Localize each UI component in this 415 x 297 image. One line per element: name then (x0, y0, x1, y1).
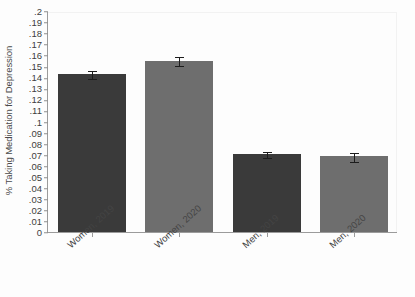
y-axis-tick: .03 (29, 195, 48, 205)
y-axis-tick-label: .05 (29, 173, 44, 183)
y-axis-tick: .02 (29, 206, 48, 216)
y-axis-tick-mark (44, 199, 48, 200)
y-axis-tick: .15 (29, 63, 48, 73)
y-axis-tick: .16 (29, 51, 48, 61)
error-bar-cap-upper (350, 153, 359, 154)
y-axis-tick-label: .19 (29, 18, 44, 28)
y-axis-tick: .14 (29, 74, 48, 84)
bar (145, 61, 213, 232)
y-axis-tick-label: .02 (29, 206, 44, 216)
y-axis-tick-label: .03 (29, 195, 44, 205)
y-axis-tick-label: .16 (29, 51, 44, 61)
y-axis-tick: .13 (29, 85, 48, 95)
y-axis-tick-mark (44, 233, 48, 234)
y-axis-tick-label: .2 (34, 7, 44, 17)
error-bar-cap-upper (263, 152, 272, 153)
y-axis-tick: .06 (29, 162, 48, 172)
y-axis-tick-label: .07 (29, 151, 44, 161)
y-axis-tick-mark (44, 23, 48, 24)
y-axis-tick-mark (44, 155, 48, 156)
y-axis-tick-mark (44, 221, 48, 222)
x-axis-tick-mark (92, 232, 93, 237)
plot-inner: 0.01.02.03.04.05.06.07.08.09.1.11.12.13.… (48, 12, 397, 232)
y-axis-tick-mark (44, 45, 48, 46)
y-axis-tick-label: .14 (29, 74, 44, 84)
y-axis-tick: .04 (29, 184, 48, 194)
bar (58, 74, 126, 232)
y-axis-tick-mark (44, 144, 48, 145)
y-axis-tick-mark (44, 34, 48, 35)
y-axis-tick-label: .17 (29, 40, 44, 50)
error-bar (92, 71, 93, 80)
y-axis-tick-label: .18 (29, 29, 44, 39)
y-axis-tick-label: 0 (37, 228, 44, 238)
x-axis-tick-mark (179, 232, 180, 237)
y-axis-tick-mark (44, 177, 48, 178)
y-axis-tick-mark (44, 89, 48, 90)
error-bar-cap-lower (175, 66, 184, 67)
y-axis-tick: 0 (37, 228, 48, 238)
y-axis-tick-mark (44, 111, 48, 112)
y-axis-tick-label: .06 (29, 162, 44, 172)
y-axis-tick-label: .1 (34, 118, 44, 128)
y-axis-tick-mark (44, 166, 48, 167)
y-axis-tick-label: .15 (29, 63, 44, 73)
x-axis-tick-mark (354, 232, 355, 237)
error-bar-cap-upper (88, 71, 97, 72)
x-axis-tick-mark (267, 232, 268, 237)
y-axis-title: % Taking Medication for Depression (0, 0, 18, 240)
y-axis-tick-label: .11 (29, 107, 44, 117)
error-bar-cap-lower (350, 162, 359, 163)
y-axis-tick: .08 (29, 140, 48, 150)
y-axis-tick: .09 (29, 129, 48, 139)
y-axis-tick: .01 (29, 217, 48, 227)
y-axis-tick-label: .04 (29, 184, 44, 194)
y-axis-tick-mark (44, 133, 48, 134)
bar-chart-figure: % Taking Medication for Depression 0.01.… (0, 0, 415, 297)
y-axis-tick-mark (44, 12, 48, 13)
y-axis-tick-label: .09 (29, 129, 44, 139)
error-bar-cap-upper (175, 57, 184, 58)
error-bar (179, 57, 180, 66)
y-axis-title-text: % Taking Medication for Depression (4, 45, 15, 195)
error-bar (354, 153, 355, 162)
y-axis-tick-mark (44, 188, 48, 189)
y-axis-tick-label: .12 (29, 96, 44, 106)
y-axis-tick: .12 (29, 96, 48, 106)
y-axis-tick: .18 (29, 29, 48, 39)
error-bar-cap-lower (88, 79, 97, 80)
y-axis-tick: .05 (29, 173, 48, 183)
y-axis-tick-mark (44, 210, 48, 211)
y-axis-tick: .11 (29, 107, 48, 117)
y-axis-tick-mark (44, 78, 48, 79)
y-axis-tick: .17 (29, 40, 48, 50)
y-axis-tick-mark (44, 100, 48, 101)
y-axis-tick-mark (44, 56, 48, 57)
y-axis-tick-label: .13 (29, 85, 44, 95)
y-axis-tick-mark (44, 67, 48, 68)
error-bar-cap-lower (263, 158, 272, 159)
y-axis-tick-label: .08 (29, 140, 44, 150)
plot-area: 0.01.02.03.04.05.06.07.08.09.1.11.12.13.… (47, 12, 397, 233)
y-axis-tick: .2 (34, 7, 48, 17)
y-axis-tick: .1 (34, 118, 48, 128)
y-axis-tick: .19 (29, 18, 48, 28)
y-axis-tick-mark (44, 122, 48, 123)
y-axis-tick-label: .01 (29, 217, 44, 227)
y-axis-tick: .07 (29, 151, 48, 161)
